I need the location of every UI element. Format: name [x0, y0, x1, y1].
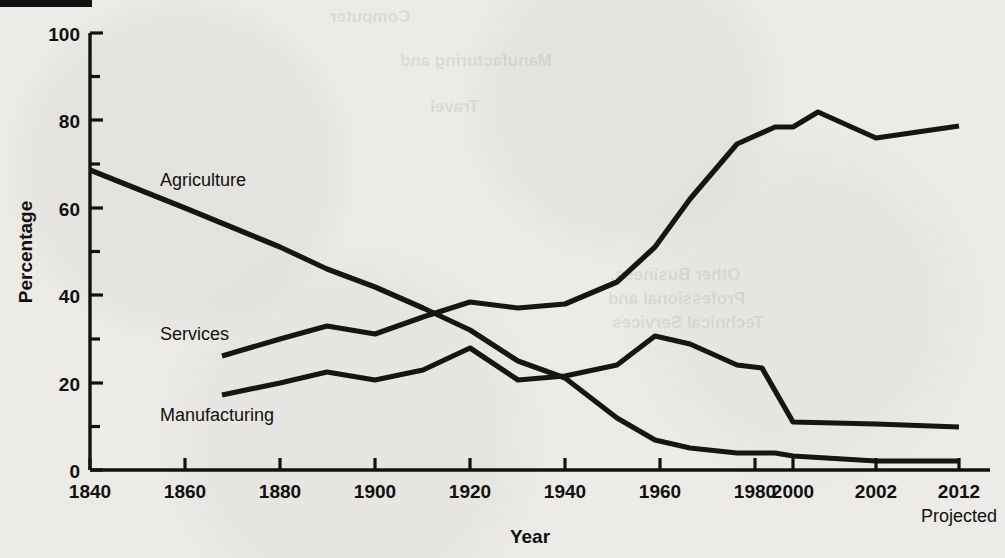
y-tick-label-0: 0 — [69, 461, 80, 482]
x-tick-label-1880: 1880 — [259, 481, 301, 502]
y-tick-label-80: 80 — [59, 111, 80, 132]
x-tick-label-1940: 1940 — [544, 481, 586, 502]
x-tick-label-1980: 1980 — [734, 481, 776, 502]
y-tick-label-60: 60 — [59, 199, 80, 220]
x-tick-label-2012: 2012 — [938, 481, 980, 502]
y-axis-title: Percentage — [15, 201, 36, 303]
x-tick-label-1860: 1860 — [164, 481, 206, 502]
x-tick-label-1920: 1920 — [449, 481, 491, 502]
x-tick-label-2000: 2000 — [772, 481, 814, 502]
x-tick-label-1900: 1900 — [354, 481, 396, 502]
series-line-services — [222, 112, 959, 356]
x-tick-label-2002: 2002 — [855, 481, 897, 502]
series-label-agriculture: Agriculture — [160, 170, 246, 190]
x-axis-projected-note: Projected — [921, 506, 997, 526]
y-tick-label-20: 20 — [59, 374, 80, 395]
x-axis-title: Year — [510, 526, 551, 547]
y-tick-label-100: 100 — [48, 24, 80, 45]
chart-svg: 100 80 60 40 20 0 Percentage 1840 1860 1… — [0, 0, 1005, 558]
line-chart: 100 80 60 40 20 0 Percentage 1840 1860 1… — [0, 0, 1005, 558]
y-tick-label-40: 40 — [59, 286, 80, 307]
x-tick-label-1960: 1960 — [639, 481, 681, 502]
series-label-services: Services — [160, 324, 229, 344]
series-label-manufacturing: Manufacturing — [160, 405, 274, 425]
x-tick-label-1840: 1840 — [69, 481, 111, 502]
series-line-manufacturing — [222, 336, 959, 427]
